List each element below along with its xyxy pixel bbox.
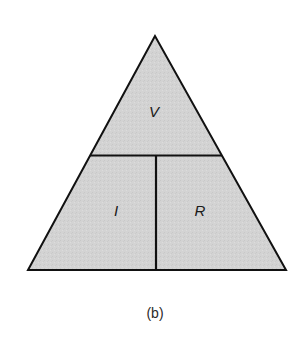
label-current: I — [114, 202, 118, 219]
label-resistance: R — [195, 202, 206, 219]
figure-caption: (b) — [146, 305, 163, 321]
ohms-law-triangle-diagram: V I R (b) — [0, 0, 299, 340]
